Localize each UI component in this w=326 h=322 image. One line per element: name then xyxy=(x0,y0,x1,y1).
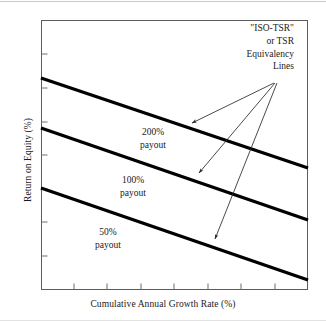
series-label-50-payout-word: payout xyxy=(78,239,138,252)
y-axis-title: Return on Equity (%) xyxy=(23,70,33,250)
callout-arrow-to-50 xyxy=(215,83,277,239)
series-label-200-payout-word: payout xyxy=(123,139,183,152)
series-label-100-value: 100% xyxy=(103,174,163,187)
callout-arrow-to-200 xyxy=(192,83,274,123)
y-axis-ticks xyxy=(42,54,48,256)
callout-line-1: "ISO-TSR" xyxy=(186,22,294,35)
callout-line-2: or TSR xyxy=(186,35,294,48)
series-label-200-payout: 200% payout xyxy=(123,126,183,151)
series-label-200-value: 200% xyxy=(123,126,183,139)
callout-arrow-to-100 xyxy=(199,83,275,173)
chart-figure: Return on Equity (%) Cumulative Annual G… xyxy=(0,0,326,322)
x-axis-title: Cumulative Annual Growth Rate (%) xyxy=(0,299,326,309)
callout-arrows xyxy=(192,83,277,239)
callout-line-4: Lines xyxy=(186,60,294,73)
callout-line-3: Equivalency xyxy=(186,48,294,61)
x-axis-ticks xyxy=(74,284,275,290)
iso-tsr-callout-text: "ISO-TSR" or TSR Equivalency Lines xyxy=(186,22,294,73)
series-label-50-payout: 50% payout xyxy=(78,226,138,251)
series-label-50-value: 50% xyxy=(78,226,138,239)
series-label-100-payout: 100% payout xyxy=(103,174,163,199)
series-label-100-payout-word: payout xyxy=(103,187,163,200)
